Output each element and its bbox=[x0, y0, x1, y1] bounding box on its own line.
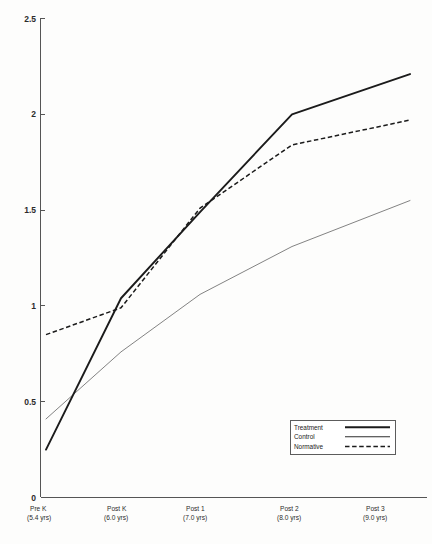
y-tick-label-0_5: 0.5 bbox=[24, 397, 36, 407]
x-tick-labels: Pre K (5.4 yrs) Post K (6.0 yrs) Post 1 … bbox=[27, 505, 387, 522]
y-tick-label-0: 0 bbox=[31, 493, 36, 503]
series-line-control bbox=[46, 201, 410, 419]
y-tick-label-2_5: 2.5 bbox=[24, 14, 36, 24]
chart-figure: 2.5 2 1.5 1 0.5 0 Pre K (5.4 yrs) Post K… bbox=[0, 0, 432, 544]
chart-legend: Treatment Control Normative bbox=[291, 421, 396, 455]
x-tick-label-2-main: Post 1 bbox=[186, 505, 205, 512]
series-line-normative bbox=[46, 120, 410, 335]
y-tick-marks bbox=[41, 19, 46, 498]
x-tick-label-1-sub: (6.0 yrs) bbox=[104, 514, 128, 522]
y-tick-label-2: 2 bbox=[31, 109, 36, 119]
legend-label-control: Control bbox=[294, 433, 315, 440]
y-tick-labels: 2.5 2 1.5 1 0.5 0 bbox=[24, 14, 36, 503]
line-chart: 2.5 2 1.5 1 0.5 0 Pre K (5.4 yrs) Post K… bbox=[0, 0, 432, 544]
x-tick-label-4-sub: (9.0 yrs) bbox=[363, 514, 387, 522]
x-tick-label-0-sub: (5.4 yrs) bbox=[27, 514, 51, 522]
x-tick-label-3-main: Post 2 bbox=[280, 505, 299, 512]
x-tick-label-0-main: Pre K bbox=[30, 505, 47, 512]
y-tick-label-1_5: 1.5 bbox=[24, 205, 36, 215]
x-tick-label-2-sub: (7.0 yrs) bbox=[183, 514, 207, 522]
legend-label-treatment: Treatment bbox=[294, 424, 323, 431]
legend-label-normative: Normative bbox=[294, 443, 324, 450]
series-line-treatment bbox=[46, 74, 410, 450]
x-tick-label-3-sub: (8.0 yrs) bbox=[277, 514, 301, 522]
y-tick-label-1: 1 bbox=[31, 301, 36, 311]
x-tick-label-4-main: Post 3 bbox=[366, 505, 385, 512]
x-tick-label-1-main: Post K bbox=[107, 505, 127, 512]
